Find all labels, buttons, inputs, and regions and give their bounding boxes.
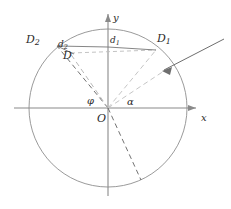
label-D-base: D <box>63 49 72 62</box>
label-d1-sub: 1 <box>116 39 120 47</box>
label-D1-base: D <box>157 32 166 45</box>
label-alpha-angle: α <box>127 97 134 107</box>
ray-incidence-alpha <box>108 67 170 108</box>
label-d1: d1 <box>110 36 120 46</box>
label-D1-sub: 1 <box>166 37 171 46</box>
ray-lower-right <box>108 108 141 180</box>
label-x-axis: x <box>201 113 207 123</box>
label-phi-angle: φ <box>87 96 94 106</box>
y-axis-arrowhead <box>105 14 111 22</box>
incident-ray-line <box>164 39 224 70</box>
label-x-axis-text: x <box>201 112 207 123</box>
label-y-axis: y <box>113 13 119 23</box>
chord-d1-line <box>71 50 156 53</box>
label-phi-symbol: φ <box>87 95 94 106</box>
label-origin-text: O <box>97 112 106 125</box>
figure-canvas <box>0 0 231 209</box>
label-D1: D1 <box>157 33 171 46</box>
label-origin: O <box>97 113 106 124</box>
label-D: D <box>63 50 72 61</box>
x-axis-arrowhead <box>188 105 196 111</box>
geometry-figure: D2 d2 D d1 D1 φ α O x y <box>0 0 231 209</box>
label-y-axis-text: y <box>113 12 119 23</box>
label-D2: D2 <box>26 34 40 47</box>
label-D2-sub: 2 <box>35 38 40 47</box>
label-alpha-symbol: α <box>127 96 134 107</box>
label-D2-base: D <box>26 33 35 46</box>
